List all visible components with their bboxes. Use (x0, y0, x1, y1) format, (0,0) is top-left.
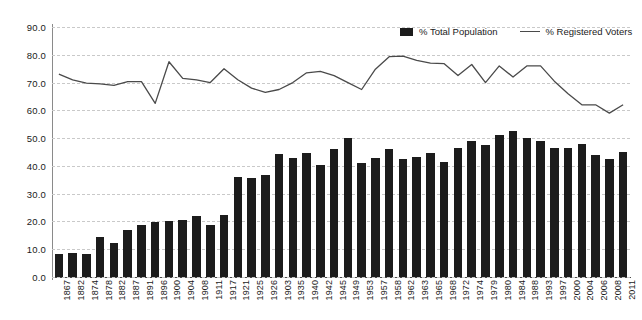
x-axis-tick-label: 1974 (475, 280, 485, 300)
y-axis-tick-label: 50.0 (0, 133, 46, 144)
x-axis-tick-label: 1968 (448, 280, 458, 300)
x-axis-tick-label: 1925 (255, 280, 265, 300)
x-axis-tick-label: 1953 (365, 280, 375, 300)
x-axis-tick-label: 1980 (503, 280, 513, 300)
x-axis-tick-label: 2006 (599, 280, 609, 300)
x-axis-tick-label: 1942 (324, 280, 334, 300)
x-axis-tick-label: 1926 (269, 280, 279, 300)
line-series-registered-voters (52, 27, 630, 277)
x-axis-tick-label: 1904 (186, 280, 196, 300)
x-axis-tick-label: 1957 (379, 280, 389, 300)
x-axis-tick-label: 1972 (461, 280, 471, 300)
y-axis-tick-label: 90.0 (0, 22, 46, 33)
x-axis-tick-label: 1945 (338, 280, 348, 300)
x-axis-tick-label: 1921 (241, 280, 251, 300)
x-axis-tick-label: 1882 (117, 280, 127, 300)
x-axis-tick-label: 1917 (228, 280, 238, 300)
x-axis-tick-label: 1965 (434, 280, 444, 300)
y-axis-tick-label: 30.0 (0, 188, 46, 199)
x-axis-tick-label: 1997 (558, 280, 568, 300)
x-axis-tick-label: 1903 (283, 280, 293, 300)
line-path (59, 56, 623, 113)
x-axis-tick-label: 1984 (517, 280, 527, 300)
x-axis-tick-label: 1993 (544, 280, 554, 300)
x-axis-tick-label: 1908 (200, 280, 210, 300)
x-axis-tick-label: 1963 (420, 280, 430, 300)
x-axis-tick-label: 1962 (406, 280, 416, 300)
x-axis-tick-label: 1891 (145, 280, 155, 300)
y-axis-tick-label: 20.0 (0, 216, 46, 227)
x-axis-tick-label: 2000 (572, 280, 582, 300)
x-axis-tick-label: 1882 (76, 280, 86, 300)
x-axis-tick-label: 1949 (351, 280, 361, 300)
x-axis-tick-label: 1900 (172, 280, 182, 300)
gridline (52, 277, 630, 278)
x-axis-tick-label: 1867 (62, 280, 72, 300)
y-axis-tick-label: 40.0 (0, 160, 46, 171)
plot-area (52, 27, 630, 277)
chart-container: % Total Population % Registered Voters 0… (0, 0, 642, 320)
x-axis-tick-label: 1979 (489, 280, 499, 300)
y-axis-tick-label: 10.0 (0, 244, 46, 255)
x-axis-tick-label: 1878 (104, 280, 114, 300)
x-axis-tick-label: 1988 (530, 280, 540, 300)
x-axis-tick-label: 1911 (214, 280, 224, 300)
y-axis-tick-label: 0.0 (0, 272, 46, 283)
y-axis-tick-label: 70.0 (0, 77, 46, 88)
y-axis-tick-label: 60.0 (0, 105, 46, 116)
y-axis-tick-label: 80.0 (0, 49, 46, 60)
x-axis-tick-label: 1935 (296, 280, 306, 300)
x-axis-tick-label: 2004 (585, 280, 595, 300)
x-axis-tick-label: 1874 (90, 280, 100, 300)
x-axis-tick-label: 1887 (131, 280, 141, 300)
x-axis-tick-label: 1896 (159, 280, 169, 300)
x-axis-tick-label: 1940 (310, 280, 320, 300)
x-axis-ticks: 1867188218741878188218871891189619001904… (52, 280, 630, 320)
x-axis-tick-label: 2008 (613, 280, 623, 300)
x-axis-tick-label: 2011 (627, 280, 637, 300)
x-axis-tick-label: 1958 (393, 280, 403, 300)
